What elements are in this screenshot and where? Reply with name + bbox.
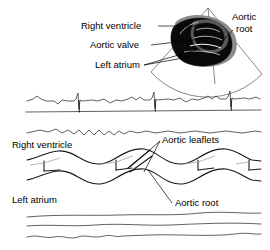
two-d-sector-panel: Right ventricle Aortic valve Left atrium…: [81, 8, 262, 97]
ecg-baseline: [26, 110, 261, 112]
label-aortic-valve-2d: Aortic valve: [90, 39, 139, 50]
echocardiogram-figure: Right ventricle Aortic valve Left atrium…: [0, 0, 270, 250]
label-aortic-root-2d-line1: Aortic: [232, 11, 257, 22]
leaflet-box-2-bottom: [116, 168, 132, 170]
label-left-atrium-2d: Left atrium: [95, 59, 140, 70]
m-mode-la-trace-3: [27, 233, 261, 238]
m-mode-panel: Right ventricle Aortic leaflets Left atr…: [12, 129, 261, 238]
leader-aortic-leaflets-2: [144, 141, 160, 172]
m-mode-top-trace: [27, 129, 261, 135]
label-left-atrium-mmode: Left atrium: [12, 194, 57, 205]
leaflet-box-4-top: [236, 162, 249, 164]
figure-canvas: Right ventricle Aortic valve Left atrium…: [0, 0, 270, 250]
label-aortic-leaflets: Aortic leaflets: [162, 134, 219, 145]
ecg-panel: [26, 91, 261, 112]
label-right-ventricle-2d: Right ventricle: [81, 20, 141, 31]
ecg-waveform: [27, 91, 260, 109]
leaflet-box-4-bottom: [249, 169, 261, 170]
m-mode-la-trace-2: [27, 223, 261, 226]
label-aortic-root-mmode: Aortic root: [175, 197, 219, 208]
m-mode-aortic-root-posterior-wall: [27, 169, 261, 184]
leaflet-box-3-bottom: [198, 168, 214, 170]
leader-aortic-root-mmode: [148, 170, 172, 203]
m-mode-la-trace-1: [27, 212, 261, 217]
leaflet-box-1-top: [30, 163, 44, 165]
label-right-ventricle-mmode: Right ventricle: [12, 139, 72, 150]
echo-content: [171, 15, 237, 66]
leaflet-box-1-upper: [44, 158, 60, 163]
label-aortic-root-2d-line2: root: [236, 23, 253, 34]
